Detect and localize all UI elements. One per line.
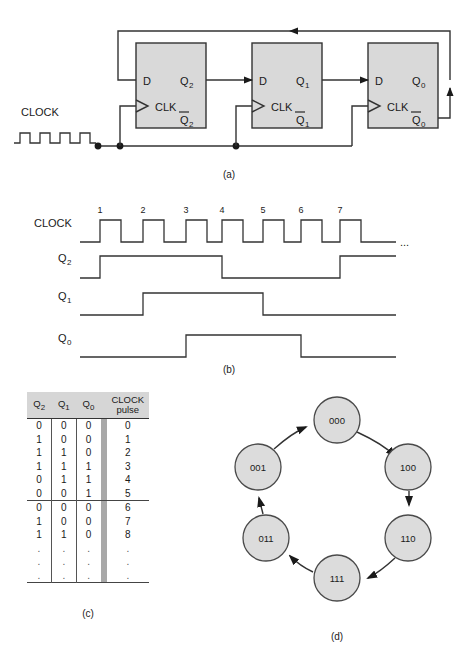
clock-junction-dot-0 xyxy=(95,143,102,150)
cell-clock-pulse: . xyxy=(107,542,149,556)
table-row: 0000 xyxy=(27,419,149,433)
timing-row-label-clock: CLOCK xyxy=(34,217,73,229)
flipflop-q2-qbar-sub: 2 xyxy=(189,120,194,129)
header-q2-text: Q xyxy=(33,398,40,409)
timing-ellipsis: ... xyxy=(400,236,409,248)
cell-clock-pulse: 5 xyxy=(107,487,149,501)
table-row: .... xyxy=(27,542,149,556)
state-table-grid: Q2 Q1 Q0 CLOCK pulse 0000100111021113011… xyxy=(27,392,149,585)
transition-011-to-001 xyxy=(259,498,263,514)
flipflop-q2-qbar-label: Q xyxy=(180,114,189,126)
clk-branch-ff2 xyxy=(120,106,136,146)
flipflop-q0-clk-label: CLK xyxy=(387,101,409,113)
flipflop-q2-d-label: D xyxy=(143,75,151,87)
state-label-011: 011 xyxy=(258,533,273,544)
cell-q1: . xyxy=(51,569,76,583)
cell-q0: 1 xyxy=(76,460,100,474)
transition-111-to-011 xyxy=(290,556,313,572)
timing-row-sub-q1: 1 xyxy=(67,296,72,305)
cell-q0: 0 xyxy=(76,446,100,460)
clk-branch-ff1 xyxy=(236,106,252,146)
cell-q0: 1 xyxy=(76,487,100,501)
cell-q1: 1 xyxy=(51,460,76,474)
flipflop-q0-qbar-label: Q xyxy=(412,114,421,126)
timing-row-label-q0: Q xyxy=(58,332,67,344)
pulse-number-3: 3 xyxy=(183,205,188,215)
table-row: .... xyxy=(27,555,149,569)
cell-clock-pulse: 6 xyxy=(107,501,149,515)
flipflop-q1-q-label: Q xyxy=(296,75,305,87)
flipflop-q0-q-label: Q xyxy=(412,75,421,87)
header-q2: Q2 xyxy=(27,392,51,419)
cell-clock-pulse: . xyxy=(107,569,149,583)
header-q0: Q0 xyxy=(76,392,100,419)
cell-q2: 1 xyxy=(27,528,51,542)
cell-q0: 0 xyxy=(76,515,100,529)
circuit-diagram: CLOCK D CLK Q 2 Q 2 D CLK Q 1 Q 1 D CLK xyxy=(0,0,459,185)
cell-clock-pulse: 0 xyxy=(107,419,149,433)
flipflop-q1-qbar-label: Q xyxy=(296,114,305,126)
clock-source-waveform xyxy=(14,133,96,143)
header-clock-line2: pulse xyxy=(107,405,149,415)
cell-q2: . xyxy=(27,569,51,583)
cell-q2: . xyxy=(27,542,51,556)
cell-clock-pulse: 3 xyxy=(107,460,149,474)
cell-q2: 1 xyxy=(27,460,51,474)
pulse-number-7: 7 xyxy=(337,205,342,215)
state-label-001: 001 xyxy=(250,462,266,473)
clock-source-label: CLOCK xyxy=(21,106,60,118)
table-bottom-rule xyxy=(27,583,149,586)
header-clock-pulse: CLOCK pulse xyxy=(107,392,149,419)
cell-q1: 0 xyxy=(51,501,76,515)
cell-q2: 1 xyxy=(27,433,51,447)
table-row: 0006 xyxy=(27,501,149,515)
flipflop-q2-q-sub: 2 xyxy=(189,81,194,90)
table-row: 1001 xyxy=(27,433,149,447)
cell-q2: 0 xyxy=(27,501,51,515)
caption-b: (b) xyxy=(223,364,235,375)
cell-clock-pulse: . xyxy=(107,555,149,569)
cell-q1: 1 xyxy=(51,473,76,487)
cell-q0: . xyxy=(76,542,100,556)
transition-110-to-111 xyxy=(368,558,395,578)
cell-q2: 0 xyxy=(27,419,51,433)
table-body: 000010011102111301140015000610071108....… xyxy=(27,419,149,586)
state-table: Q2 Q1 Q0 CLOCK pulse 0000100111021113011… xyxy=(27,392,149,585)
timing-row-label-q1: Q xyxy=(58,290,67,302)
cell-q1: . xyxy=(51,555,76,569)
header-q0-sub: 0 xyxy=(90,403,94,412)
table-row: 1113 xyxy=(27,460,149,474)
cell-q2: 0 xyxy=(27,473,51,487)
waveform-clock xyxy=(80,220,396,242)
pulse-number-1: 1 xyxy=(97,205,102,215)
flipflop-q0-qbar-sub: 0 xyxy=(421,120,426,129)
waveform-q1 xyxy=(80,293,396,315)
flipflop-q1-q-sub: 1 xyxy=(305,81,310,90)
cell-q1: 1 xyxy=(51,446,76,460)
waveform-q0 xyxy=(80,335,396,357)
state-diagram: 000 100 110 111 011 001 (d) xyxy=(190,390,459,653)
transition-000-to-100 xyxy=(357,432,395,456)
timing-row-label-q2: Q xyxy=(58,252,67,264)
pulse-number-4: 4 xyxy=(219,205,224,215)
table-header-row: Q2 Q1 Q0 CLOCK pulse xyxy=(27,392,149,419)
wire-feedback-qbar0-right xyxy=(438,88,450,118)
timing-diagram: 1 2 3 4 5 6 7 CLOCK Q 2 Q 1 Q 0 ... (b) xyxy=(0,190,459,375)
cell-q1: 0 xyxy=(51,515,76,529)
table-row: 1102 xyxy=(27,446,149,460)
flipflop-q1-qbar-sub: 1 xyxy=(305,120,310,129)
table-row: 0015 xyxy=(27,487,149,501)
cell-q1: 0 xyxy=(51,487,76,501)
cell-clock-pulse: 1 xyxy=(107,433,149,447)
cell-q1: 0 xyxy=(51,419,76,433)
table-row: 0114 xyxy=(27,473,149,487)
cell-q1: . xyxy=(51,542,76,556)
cell-q0: . xyxy=(76,555,100,569)
flipflop-q0-q-sub: 0 xyxy=(421,81,426,90)
header-q0-text: Q xyxy=(83,398,90,409)
pulse-number-5: 5 xyxy=(260,205,265,215)
state-label-000: 000 xyxy=(329,415,345,426)
caption-a: (a) xyxy=(223,169,235,180)
cell-q1: 0 xyxy=(51,433,76,447)
cell-clock-pulse: 7 xyxy=(107,515,149,529)
